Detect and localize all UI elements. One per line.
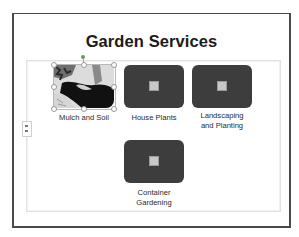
item-label-line: Container	[114, 188, 194, 198]
picture-placeholder-shape[interactable]	[124, 65, 184, 108]
picture-placeholder-shape[interactable]	[124, 140, 184, 183]
chevron-right-icon	[25, 130, 28, 132]
resize-handle-left[interactable]	[51, 84, 57, 90]
text-pane-toggle-button[interactable]	[22, 121, 32, 137]
item-label[interactable]: Mulch and Soil	[44, 113, 124, 123]
picture-placeholder-icon[interactable]	[149, 81, 159, 91]
resize-handle-bottom-left[interactable]	[51, 106, 57, 112]
selection-frame	[53, 64, 116, 110]
resize-handle-bottom[interactable]	[81, 106, 87, 112]
item-label-line: Landscaping	[182, 111, 262, 121]
smartart-graphic[interactable]: Mulch and Soil House Plants Landscaping …	[26, 60, 281, 212]
resize-handle-top-right[interactable]	[111, 62, 117, 68]
chevron-left-icon	[25, 125, 28, 127]
item-label-line: and Planting	[182, 121, 262, 131]
item-label[interactable]: Landscaping and Planting	[182, 111, 262, 131]
resize-handle-top-left[interactable]	[51, 62, 57, 68]
item-label-line: Gardening	[114, 198, 194, 208]
resize-handle-bottom-right[interactable]	[111, 106, 117, 112]
resize-handle-top[interactable]	[81, 62, 87, 68]
slide: Garden Services	[12, 13, 291, 228]
slide-title[interactable]: Garden Services	[14, 32, 289, 51]
picture-placeholder-icon[interactable]	[217, 81, 227, 91]
resize-handle-right[interactable]	[111, 84, 117, 90]
picture-placeholder-shape[interactable]	[192, 65, 252, 108]
picture-placeholder-icon[interactable]	[149, 156, 159, 166]
item-label[interactable]: Container Gardening	[114, 188, 194, 208]
